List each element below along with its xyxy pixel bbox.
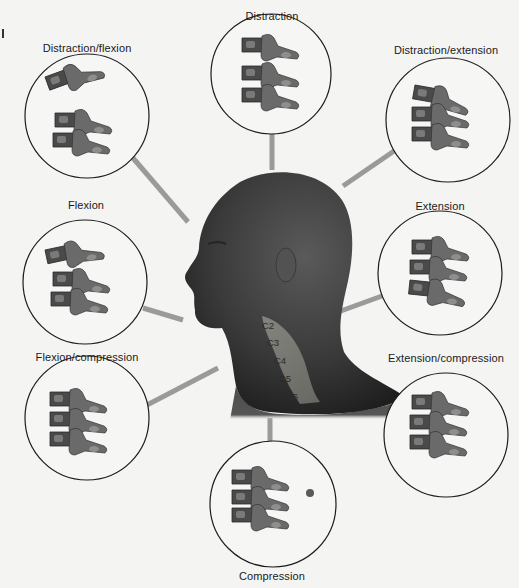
diagram-canvas xyxy=(0,0,519,588)
label-distraction-extension: Distraction/extension xyxy=(394,44,498,56)
connector-distraction-extension xyxy=(343,149,397,186)
cervical-label-c7: C7 xyxy=(294,405,306,416)
label-flexion: Flexion xyxy=(68,199,104,211)
cervical-label-c3: C3 xyxy=(267,337,279,348)
label-distraction: Distraction xyxy=(245,10,298,22)
cervical-label-c2: C2 xyxy=(262,320,274,331)
connector-distraction-flexion xyxy=(133,158,188,222)
label-flexion-compression: Flexion/compression xyxy=(36,351,139,363)
label-distraction-flexion: Distraction/flexion xyxy=(43,42,132,54)
circle-extension-compression xyxy=(384,373,508,497)
cervical-label-c6: C6 xyxy=(286,391,298,402)
cervical-label-c4: C4 xyxy=(274,355,286,366)
label-extension: Extension xyxy=(415,200,464,212)
cervical-label-c5: C5 xyxy=(279,373,291,384)
label-compression: Compression xyxy=(239,570,305,582)
circle-flexion-compression xyxy=(25,356,149,480)
label-extension-compression: Extension/compression xyxy=(388,352,504,364)
injury-mechanism-diagram: Distraction/flexion Distraction Distract… xyxy=(0,0,519,588)
connector-flexion-compression xyxy=(147,368,218,405)
connector-flexion xyxy=(143,308,183,320)
